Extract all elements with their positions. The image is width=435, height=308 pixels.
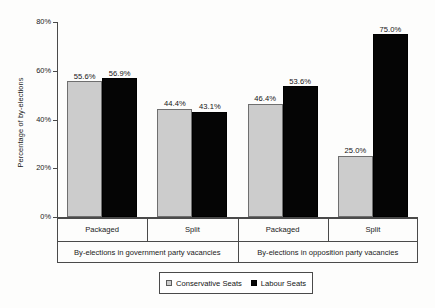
category-band-edge bbox=[57, 218, 58, 241]
bar-conservative-2: 44.4% bbox=[157, 109, 192, 217]
legend-swatch-labour-icon bbox=[251, 280, 257, 286]
group-separator bbox=[57, 241, 58, 263]
y-tick-mark bbox=[53, 120, 57, 121]
bar-value-label: 75.0% bbox=[380, 26, 402, 34]
bar-value-label: 55.6% bbox=[74, 73, 96, 81]
plot-area: 0%20%40%60%80% 55.6%56.9%44.4%43.1%46.4%… bbox=[57, 22, 418, 218]
x-category-label-2: Split bbox=[147, 218, 237, 241]
x-category-label-1: Packaged bbox=[57, 218, 147, 241]
x-group-label-2: By-elections in opposition party vacanci… bbox=[238, 241, 419, 263]
y-tick-mark bbox=[53, 22, 57, 23]
bar-value-label: 46.4% bbox=[254, 95, 276, 103]
bar-value-label: 25.0% bbox=[345, 147, 367, 155]
x-axis-group-row: By-elections in government party vacanci… bbox=[57, 241, 418, 263]
x-category-label-3: Packaged bbox=[238, 218, 328, 241]
x-category-label-4: Split bbox=[328, 218, 418, 241]
legend-item-labour: Labour Seats bbox=[251, 279, 306, 288]
bar-value-label: 56.9% bbox=[109, 70, 131, 78]
group-separator bbox=[417, 241, 418, 263]
bar-conservative-4: 25.0% bbox=[338, 156, 373, 217]
bar-value-label: 44.4% bbox=[164, 100, 186, 108]
bar-labour-1: 56.9% bbox=[102, 78, 137, 217]
y-axis-line bbox=[57, 22, 58, 218]
y-tick-label: 60% bbox=[36, 67, 51, 74]
bar-labour-3: 53.6% bbox=[283, 86, 318, 217]
y-tick-mark bbox=[53, 168, 57, 169]
bar-value-label: 43.1% bbox=[199, 103, 221, 111]
bar-conservative-1: 55.6% bbox=[67, 81, 102, 217]
y-axis-title: Percentage of by-elections bbox=[16, 33, 25, 213]
legend-label-conservative: Conservative Seats bbox=[176, 279, 242, 288]
y-tick-label: 20% bbox=[36, 165, 51, 172]
x-axis-category-row: PackagedSplitPackagedSplit bbox=[57, 218, 418, 241]
bar-conservative-3: 46.4% bbox=[248, 104, 283, 217]
y-tick-label: 0% bbox=[40, 213, 51, 220]
bar-chart-figure: Percentage of by-elections 0%20%40%60%80… bbox=[0, 0, 435, 308]
y-tick-label: 40% bbox=[36, 116, 51, 123]
chart-legend: Conservative Seats Labour Seats bbox=[159, 272, 313, 294]
y-tick-mark bbox=[53, 71, 57, 72]
y-tick-label: 80% bbox=[36, 18, 51, 25]
group-separator bbox=[238, 241, 239, 263]
legend-label-labour: Labour Seats bbox=[261, 279, 306, 288]
category-band-edge bbox=[417, 218, 418, 241]
x-group-label-1: By-elections in government party vacanci… bbox=[57, 241, 238, 263]
category-separator bbox=[147, 218, 148, 241]
category-separator bbox=[238, 218, 239, 241]
category-separator bbox=[328, 218, 329, 241]
bar-value-label: 53.6% bbox=[289, 78, 311, 86]
bar-labour-4: 75.0% bbox=[373, 34, 408, 217]
legend-swatch-conservative-icon bbox=[166, 280, 172, 286]
legend-item-conservative: Conservative Seats bbox=[166, 279, 242, 288]
bar-labour-2: 43.1% bbox=[192, 112, 227, 217]
